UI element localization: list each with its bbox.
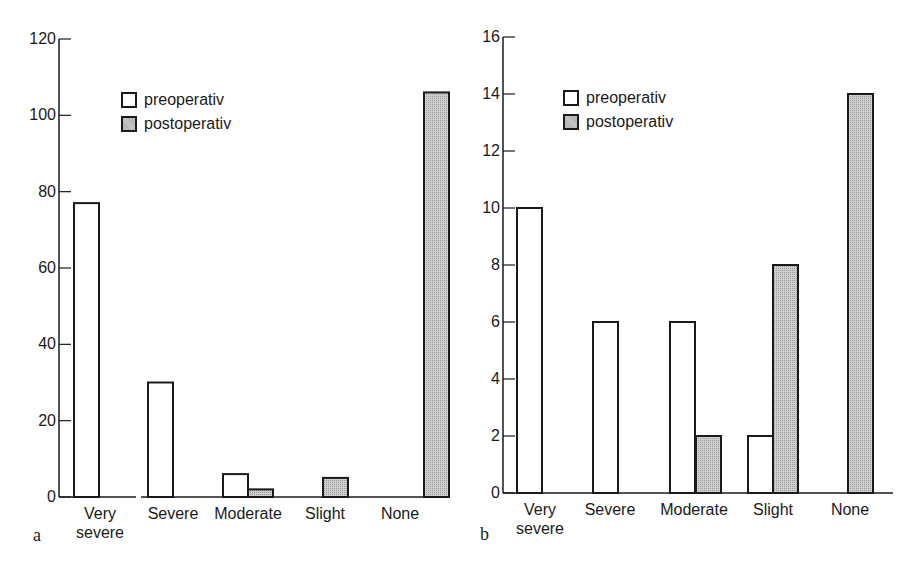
legend-a: preoperativ postoperativ <box>121 88 231 136</box>
bar-preoperativ <box>223 474 248 497</box>
y-tick-label: 8 <box>460 257 500 273</box>
y-tick-label: 20 <box>16 413 56 429</box>
y-tick-label: 0 <box>460 485 500 501</box>
y-tick-label: 10 <box>460 200 500 216</box>
y-tick-label: 120 <box>16 31 56 47</box>
chart-a-plot <box>0 0 460 569</box>
bar-preoperativ <box>593 322 618 493</box>
panel-letter-b: b <box>480 524 489 545</box>
bar-preoperativ <box>74 203 99 497</box>
bar-preoperativ <box>148 383 173 498</box>
bar-preoperativ <box>517 208 542 493</box>
category-label: Severe <box>565 500 655 519</box>
bar-postoperativ <box>696 436 721 493</box>
bar-postoperativ <box>848 94 873 493</box>
y-tick-label: 100 <box>16 107 56 123</box>
legend-swatch-preoperativ <box>121 92 137 108</box>
y-tick-label: 6 <box>460 314 500 330</box>
legend-item-preoperativ: preoperativ <box>563 86 673 110</box>
legend-b: preoperativ postoperativ <box>563 86 673 134</box>
chart-panel-a: 020406080100120 preoperativ postoperativ… <box>0 0 460 569</box>
legend-label-preoperativ: preoperativ <box>144 91 224 109</box>
bar-postoperativ <box>248 489 273 497</box>
legend-swatch-postoperativ <box>121 116 137 132</box>
chart-panel-b: 0246810121416 preoperativ postoperativ V… <box>460 0 918 569</box>
y-tick-label: 0 <box>16 489 56 505</box>
y-tick-label: 80 <box>16 184 56 200</box>
bar-postoperativ <box>424 92 449 497</box>
legend-item-postoperativ: postoperativ <box>121 112 231 136</box>
bar-preoperativ <box>670 322 695 493</box>
legend-item-postoperativ: postoperativ <box>563 110 673 134</box>
y-tick-label: 12 <box>460 143 500 159</box>
panel-letter-a: a <box>33 525 41 546</box>
legend-label-postoperativ: postoperativ <box>144 115 231 133</box>
category-label: None <box>355 504 445 523</box>
bar-postoperativ <box>323 478 348 497</box>
y-tick-label: 4 <box>460 371 500 387</box>
legend-item-preoperativ: preoperativ <box>121 88 231 112</box>
bar-preoperativ <box>748 436 773 493</box>
y-tick-label: 60 <box>16 260 56 276</box>
y-tick-label: 2 <box>460 428 500 444</box>
category-label: Moderate <box>649 500 739 519</box>
chart-b-plot <box>460 0 918 569</box>
y-tick-label: 14 <box>460 86 500 102</box>
legend-label-postoperativ: postoperativ <box>586 113 673 131</box>
legend-label-preoperativ: preoperativ <box>586 89 666 107</box>
legend-swatch-preoperativ <box>563 90 579 106</box>
y-tick-label: 16 <box>460 29 500 45</box>
category-label: None <box>805 500 895 519</box>
bar-postoperativ <box>773 265 798 493</box>
y-tick-label: 40 <box>16 336 56 352</box>
legend-swatch-postoperativ <box>563 114 579 130</box>
